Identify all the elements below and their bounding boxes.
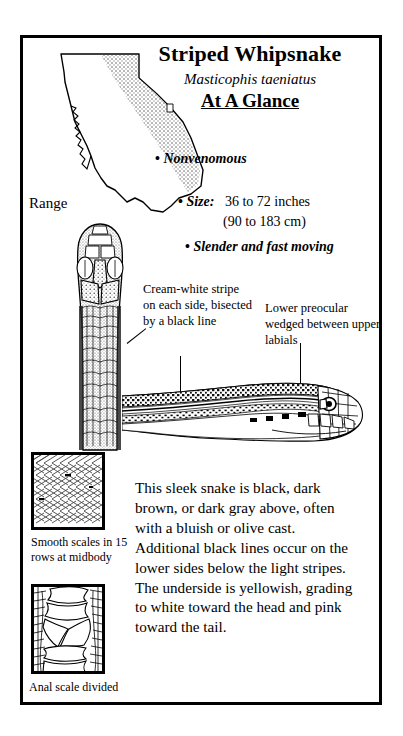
fact-size: • Size: 36 to 72 inches — [178, 193, 310, 211]
head-shields — [318, 386, 363, 439]
bullet-icon: • — [178, 194, 183, 209]
callout-stripe: Cream-white stripe on each side, bisecte… — [143, 281, 253, 329]
common-name: Striped Whipsnake — [119, 42, 381, 67]
caption-midbody-scales: Smooth scales in 15 rows at midbody — [31, 535, 137, 565]
scale-detail-anal — [31, 584, 105, 674]
bullet-icon: • — [155, 151, 160, 166]
description-paragraph: This sleek snake is black, dark brown, o… — [135, 478, 363, 637]
range-map-label: Range — [29, 196, 67, 211]
fact-size-imperial: 36 to 72 inches — [225, 194, 310, 209]
scientific-name: Masticophis taeniatus — [119, 70, 381, 89]
fact-nonvenomous-text: Nonvenomous — [163, 151, 246, 166]
caption-anal-scale: Anal scale divided — [29, 680, 149, 695]
bullet-icon: • — [185, 239, 190, 254]
fact-behavior: • Slender and fast moving — [185, 238, 334, 256]
fact-size-label: Size: — [186, 194, 214, 209]
section-heading: At A Glance — [119, 90, 381, 113]
lower-preocular-scale — [320, 399, 327, 409]
midbody-scales-illustration — [34, 455, 102, 527]
fact-nonvenomous: • Nonvenomous — [155, 150, 247, 168]
title-block: Striped Whipsnake Masticophis taeniatus … — [119, 42, 381, 113]
lateral-head-illustration — [122, 374, 382, 474]
callout-preocular: Lower preocular wedged between upper lab… — [265, 300, 382, 348]
anal-scale-illustration — [34, 587, 102, 671]
fact-size-metric: (90 to 183 cm) — [223, 214, 306, 230]
fact-behavior-text: Slender and fast moving — [193, 239, 333, 254]
scale-detail-midbody — [31, 452, 105, 530]
species-info-card: Range Striped Whipsnake Masticophis taen… — [20, 35, 382, 705]
